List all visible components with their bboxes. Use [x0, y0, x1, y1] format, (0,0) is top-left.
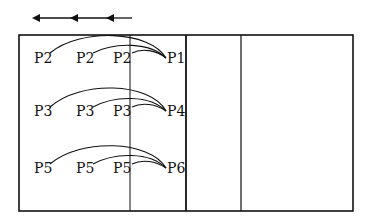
row-3: P5 P5 P5 P6 — [34, 146, 185, 176]
source-label: P5 — [76, 160, 94, 176]
source-label: P3 — [76, 103, 94, 119]
source-label: P3 — [113, 103, 131, 119]
direction-arrows — [32, 14, 132, 22]
source-label: P2 — [76, 50, 94, 66]
diagram-canvas: P2 P2 P2 P1 P3 P3 P3 P4 P5 P5 P5 P6 — [0, 0, 370, 221]
source-label: P5 — [113, 160, 131, 176]
target-label: P4 — [167, 103, 185, 119]
target-label: P6 — [167, 160, 185, 176]
row-1: P2 P2 P2 P1 — [34, 36, 185, 66]
source-label: P5 — [34, 160, 52, 176]
left-arrow-icon — [32, 14, 40, 22]
source-label: P2 — [113, 50, 131, 66]
target-label: P1 — [167, 50, 185, 66]
row-2: P3 P3 P3 P4 — [34, 88, 185, 119]
source-label: P2 — [34, 50, 52, 66]
source-label: P3 — [34, 103, 52, 119]
